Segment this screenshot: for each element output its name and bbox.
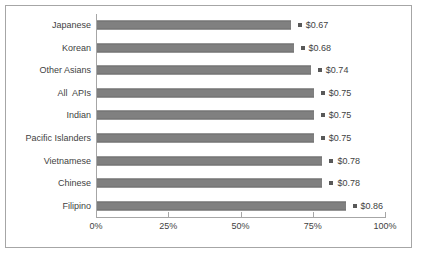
axis-tick-label: 100% bbox=[373, 221, 396, 231]
category-label: Vietnamese bbox=[44, 156, 91, 166]
category-label: Korean bbox=[62, 43, 91, 53]
bar-value-text: $0.67 bbox=[306, 20, 329, 30]
bar-row: Filipino$0.86 bbox=[96, 194, 385, 217]
bar-value-text: $0.68 bbox=[309, 43, 332, 53]
bar-data-label: $0.75 bbox=[321, 110, 352, 120]
square-marker-icon bbox=[318, 68, 322, 72]
axis-tick-label: 75% bbox=[304, 221, 322, 231]
category-label: All APIs bbox=[57, 88, 91, 98]
bar bbox=[97, 156, 322, 165]
axis-tick-label: 0% bbox=[89, 221, 102, 231]
bar bbox=[97, 179, 322, 188]
square-marker-icon bbox=[329, 159, 333, 163]
bar bbox=[97, 134, 314, 143]
bar-data-label: $0.75 bbox=[321, 133, 352, 143]
bar bbox=[97, 111, 314, 120]
square-marker-icon bbox=[353, 204, 357, 208]
bar-value-text: $0.75 bbox=[329, 88, 352, 98]
bar bbox=[97, 43, 294, 52]
bar-data-label: $0.86 bbox=[353, 201, 384, 211]
plot-area: 0%25%50%75%100% Japanese$0.67Korean$0.68… bbox=[96, 14, 385, 217]
bar bbox=[97, 201, 346, 210]
bar-value-text: $0.86 bbox=[361, 201, 384, 211]
square-marker-icon bbox=[329, 181, 333, 185]
square-marker-icon bbox=[321, 91, 325, 95]
category-label: Indian bbox=[66, 110, 91, 120]
bar-row: Chinese$0.78 bbox=[96, 172, 385, 195]
bar-row: Pacific Islanders$0.75 bbox=[96, 127, 385, 150]
category-label: Chinese bbox=[58, 178, 91, 188]
bar-value-text: $0.78 bbox=[337, 178, 360, 188]
axis-tick bbox=[385, 212, 386, 217]
bar-data-label: $0.67 bbox=[298, 20, 329, 30]
category-label: Japanese bbox=[52, 20, 91, 30]
square-marker-icon bbox=[298, 23, 302, 27]
bar-value-text: $0.75 bbox=[329, 110, 352, 120]
bar-value-text: $0.78 bbox=[337, 156, 360, 166]
bar-row: Korean$0.68 bbox=[96, 37, 385, 60]
bar-data-label: $0.68 bbox=[301, 43, 332, 53]
bar-data-label: $0.74 bbox=[318, 65, 349, 75]
chart-frame: 0%25%50%75%100% Japanese$0.67Korean$0.68… bbox=[5, 5, 412, 248]
bar-row: All APIs$0.75 bbox=[96, 82, 385, 105]
bar bbox=[97, 66, 311, 75]
bar-data-label: $0.75 bbox=[321, 88, 352, 98]
category-label: Filipino bbox=[62, 201, 91, 211]
category-label: Pacific Islanders bbox=[25, 133, 91, 143]
bar-value-text: $0.75 bbox=[329, 133, 352, 143]
square-marker-icon bbox=[321, 136, 325, 140]
bar-row: Other Asians$0.74 bbox=[96, 59, 385, 82]
category-axis-line bbox=[96, 217, 386, 218]
bar-value-text: $0.74 bbox=[326, 65, 349, 75]
category-label: Other Asians bbox=[39, 65, 91, 75]
square-marker-icon bbox=[321, 113, 325, 117]
bar-row: Indian$0.75 bbox=[96, 104, 385, 127]
bar-row: Japanese$0.67 bbox=[96, 14, 385, 37]
axis-tick-label: 50% bbox=[231, 221, 249, 231]
bar-row: Vietnamese$0.78 bbox=[96, 149, 385, 172]
bar-data-label: $0.78 bbox=[329, 156, 360, 166]
bar bbox=[97, 88, 314, 97]
square-marker-icon bbox=[301, 46, 305, 50]
bar-data-label: $0.78 bbox=[329, 178, 360, 188]
axis-tick-label: 25% bbox=[159, 221, 177, 231]
bar bbox=[97, 21, 291, 30]
